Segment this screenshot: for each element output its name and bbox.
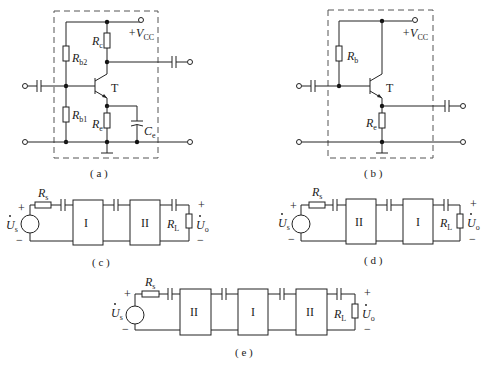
resistor-rl-d [457,214,463,228]
caption-e: ( e ) [235,346,253,359]
input-terminal-b [297,84,302,89]
minus-sign-c-out: − [197,233,204,247]
amplifier-block-c1 [73,200,103,245]
block-label-e1: II [190,305,198,319]
circuit-figure: Rb2 Rb1 Rc Re Ce T +VCC ( a ) [0,0,483,370]
output-terminal-a [188,60,193,65]
panel-c-cascade-I-II: I II Rs Us + − RL Uo + − ( c ) [6,186,209,269]
label-rb2: Rb2 [71,51,87,67]
label-us-e: Us [111,306,123,322]
label-rb1: Rb1 [71,108,87,124]
resistor-rl-c [186,214,192,228]
minus-sign-d-out: − [469,232,476,246]
label-transistor-a: T [111,81,119,95]
vcc-terminal-b [413,18,418,23]
input-terminal-a [23,84,28,89]
label-vcc-a: +VCC [128,26,154,42]
label-uo-e: Uo [362,307,375,323]
label-uo-c: Uo [196,218,209,234]
label-rs-d: Rs [311,185,322,201]
resistor-rs-c [35,202,51,208]
label-re-a: Re [91,117,103,133]
label-re-b: Re [365,116,377,132]
label-us-c: Us [6,218,18,234]
panel-a-common-emitter-amplifier: Rb2 Rb1 Rc Re Ce T +VCC ( a ) [23,11,193,180]
resistor-re-a [104,113,110,128]
panel-b-emitter-follower: Rb Re T +VCC ( b ) [297,10,466,180]
voltage-source-c [21,215,39,233]
resistor-rl-e [352,304,358,318]
minus-sign-c-in: − [16,233,23,247]
label-rl-e: RL [333,307,346,323]
label-rl-d: RL [439,216,452,232]
label-rc: Rc [91,34,103,50]
caption-c: ( c ) [92,256,110,269]
plus-sign-c-in: + [18,201,25,215]
block-label-d1: II [355,215,363,229]
resistor-rs-e [142,291,159,297]
ground-terminal-b-left [297,140,302,145]
vcc-terminal-a [139,18,144,23]
resistor-rb2 [63,46,69,61]
voltage-source-d [292,215,310,233]
ground-terminal-a-right [188,140,193,145]
resistor-rc [104,33,110,48]
label-rb: Rb [346,49,358,65]
ground-terminal-b-right [461,140,466,145]
plus-sign-c-out: + [198,198,205,212]
block-label-c1: I [84,216,88,230]
minus-sign-d-in: − [288,232,295,246]
caption-d: ( d ) [364,254,383,267]
caption-b: ( b ) [364,167,383,180]
panel-d-cascade-II-I: II I Rs Us + − RL Uo + − ( d ) [278,185,480,267]
label-us-d: Us [278,216,290,232]
output-terminal-b [461,104,466,109]
block-label-e3: II [306,305,314,319]
minus-sign-e-out: − [364,322,371,336]
plus-sign-d-out: + [470,197,477,211]
label-rs-c: Rs [37,186,48,202]
plus-sign-e-out: + [364,286,371,300]
plus-sign-d-in: + [290,199,297,213]
plus-sign-e-in: + [124,287,131,301]
block-label-c2: II [141,216,149,230]
label-transistor-b: T [386,81,394,95]
resistor-rb1 [63,107,69,122]
resistor-re-b [379,113,385,128]
block-label-d2: I [416,215,420,229]
label-uo-d: Uo [467,216,480,232]
label-rl-c: RL [166,217,179,233]
caption-a: ( a ) [90,167,108,180]
minus-sign-e-in: − [122,322,129,336]
panel-e-cascade-II-I-II: II I II Rs Us + − RL Uo + − ( e ) [111,275,375,359]
label-rs-e: Rs [144,275,155,291]
label-vcc-b: +VCC [402,26,428,42]
ground-terminal-a-left [23,140,28,145]
label-ce: Ce [144,124,156,140]
resistor-rb [336,46,342,61]
resistor-rs-d [309,202,325,208]
block-label-e2: I [251,305,255,319]
